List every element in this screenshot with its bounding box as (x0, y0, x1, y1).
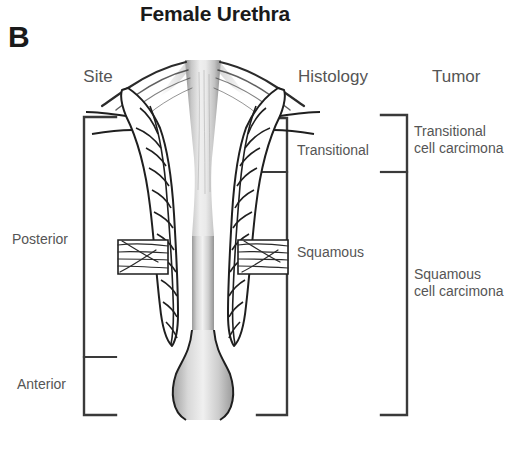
figure-title: Female Urethra (0, 2, 430, 25)
urethral-lumen (173, 60, 233, 420)
panel-label: B (8, 22, 29, 52)
figure-panel-b: B Female Urethra Site Histology Tumor Po… (0, 0, 525, 465)
tumor-label-line2: cell carcimona (414, 140, 503, 157)
bracket-tumor (381, 115, 407, 415)
tumor-label-line2: cell carcimona (414, 283, 503, 300)
tumor-label-transitional-cell-carcinoma: Transitional cell carcimona (414, 123, 503, 156)
histology-label-squamous: Squamous (297, 244, 364, 261)
histology-label-transitional: Transitional (297, 142, 369, 159)
tumor-label-line1: Squamous (414, 266, 503, 283)
site-label-posterior: Posterior (12, 231, 68, 248)
sphincter-band-right (238, 240, 288, 274)
column-header-histology: Histology (298, 68, 368, 85)
column-header-tumor: Tumor (432, 68, 481, 85)
site-label-anterior: Anterior (17, 376, 66, 393)
epithelium-right (228, 88, 320, 346)
column-header-site: Site (70, 68, 126, 85)
urethra-illustration (86, 60, 320, 420)
epithelium-left (86, 88, 178, 346)
tumor-label-line1: Transitional (414, 123, 503, 140)
sphincter-band-left (118, 240, 168, 274)
bracket-site (84, 117, 116, 415)
tumor-label-squamous-cell-carcinoma: Squamous cell carcimona (414, 266, 503, 299)
